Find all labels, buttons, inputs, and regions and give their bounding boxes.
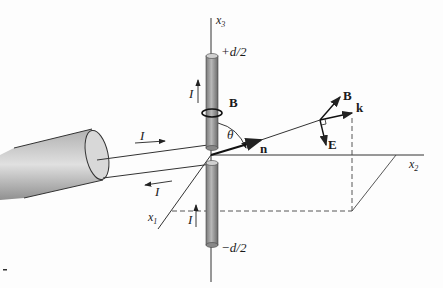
wave-k-label: k: [356, 100, 364, 115]
projection-diagonal: [352, 155, 396, 211]
normal-n-label: n: [260, 141, 268, 156]
bottom-end-label: −d/2: [221, 240, 247, 255]
feed-cable: [0, 128, 113, 200]
feed-lower-current-label: I: [154, 184, 160, 199]
diagram-svg: x3 x2 x1 +d/2 −d/2 I I I I B θ n B k E: [0, 0, 443, 288]
x1-axis: [158, 155, 211, 229]
feed-upper-current-label: I: [139, 128, 145, 143]
feed-wire-upper: [97, 145, 208, 160]
theta-label: θ: [227, 127, 234, 142]
x2-axis-label: x2: [408, 157, 418, 173]
lower-rod-current-label: I: [187, 212, 193, 227]
x3-axis-label: x3: [215, 13, 225, 29]
lower-antenna-rod: [206, 161, 218, 248]
upper-antenna-rod: [206, 54, 218, 151]
stray-mark: [3, 269, 7, 271]
loop-B-label: B: [229, 95, 238, 110]
upper-rod-current-label: I: [188, 86, 194, 101]
normal-vector-n: [211, 140, 261, 155]
wave-vector-E: [320, 120, 326, 145]
radial-line: [261, 120, 320, 140]
x1-axis-label: x1: [147, 210, 157, 226]
top-end-label: +d/2: [221, 44, 247, 59]
wave-E-label: E: [328, 137, 337, 152]
wave-B-label: B: [343, 88, 352, 103]
dipole-diagram: x3 x2 x1 +d/2 −d/2 I I I I B θ n B k E: [0, 0, 443, 288]
